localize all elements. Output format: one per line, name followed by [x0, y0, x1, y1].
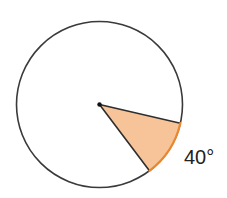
- circle-sector-diagram: [0, 0, 227, 198]
- center-point: [97, 102, 101, 106]
- angle-label: 40°: [184, 147, 214, 167]
